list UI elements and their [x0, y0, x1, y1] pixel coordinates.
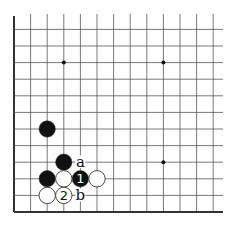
point-marker-b: b	[75, 186, 85, 204]
white-stone	[56, 171, 72, 187]
go-board: 12 ab	[0, 0, 237, 227]
stone-circle	[39, 187, 55, 203]
star-point	[161, 160, 165, 164]
black-stone: 1	[72, 171, 88, 187]
move-number-label: 2	[60, 188, 68, 203]
white-stone	[89, 171, 105, 187]
stone-circle	[39, 121, 55, 137]
white-stone: 2	[56, 187, 72, 203]
marker-label: b	[76, 186, 86, 204]
star-point	[161, 61, 165, 65]
star-point	[62, 61, 66, 65]
stone-circle	[56, 154, 72, 170]
white-stone	[39, 187, 55, 203]
black-stone	[39, 171, 55, 187]
stone-circle	[39, 171, 55, 187]
stone-circle	[56, 171, 72, 187]
move-number-label: 1	[76, 171, 84, 186]
marker-label: a	[76, 153, 85, 171]
black-stone	[39, 121, 55, 137]
black-stone	[56, 154, 72, 170]
point-marker-a: a	[75, 153, 85, 171]
stone-circle	[89, 171, 105, 187]
